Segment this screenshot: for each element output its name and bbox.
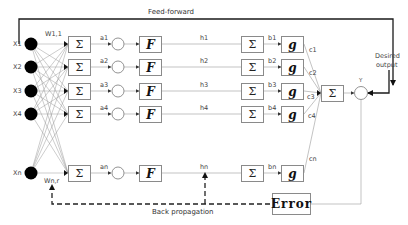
- b-label-4: b4: [268, 105, 276, 112]
- weight-label-last: Wn,r: [44, 178, 59, 185]
- c-label-2: c2: [309, 70, 317, 77]
- input-node-x4: [25, 108, 38, 121]
- b-label-2: b2: [268, 58, 276, 65]
- error-node: Error: [272, 193, 311, 215]
- desired-output-path: [368, 70, 389, 93]
- activation-node-1: [112, 38, 124, 50]
- output-sum-node: Σ: [321, 85, 344, 102]
- input-weight-connections: [31, 44, 68, 173]
- sum-node-3: Σ: [68, 83, 91, 100]
- input-label-x2: X2: [13, 64, 22, 71]
- h-label-1: h1: [200, 35, 208, 42]
- hidden-sum-node-2: Σ: [241, 59, 264, 76]
- input-label-xn: Xn: [13, 170, 22, 177]
- c-label-4: c4: [308, 113, 316, 120]
- c-label-3: c3: [307, 94, 315, 101]
- sum-node-2: Σ: [68, 59, 91, 76]
- b-label-n: bn: [268, 164, 276, 171]
- feed-forward-label: Feed-forward: [148, 9, 194, 16]
- h-label-3: h3: [200, 82, 208, 89]
- activation-node-2: [112, 61, 124, 73]
- input-label-x1: X1: [13, 41, 22, 48]
- back-propagation-label: Back propagation: [152, 209, 214, 216]
- a-label-n: an: [100, 164, 108, 171]
- output-y-label: Y: [359, 78, 362, 84]
- input-label-x4: X4: [13, 111, 22, 118]
- a-label-3: a3: [100, 82, 108, 89]
- g-node-3: g: [281, 83, 304, 100]
- desired-output-label-1: Desired: [375, 53, 400, 60]
- output-comparator-node: [355, 87, 368, 100]
- activation-node-4: [112, 108, 124, 120]
- a-label-1: a1: [100, 35, 108, 42]
- f-node-2: F: [139, 59, 162, 76]
- a-label-4: a4: [100, 105, 108, 112]
- g-node-2: g: [281, 59, 304, 76]
- sum-node-1: Σ: [68, 36, 91, 53]
- sum-node-n: Σ: [68, 165, 91, 182]
- g-node-1: g: [281, 36, 304, 53]
- f-node-4: F: [139, 106, 162, 123]
- g-node-n: g: [281, 165, 304, 182]
- b-label-3: b3: [268, 82, 276, 89]
- c-label-n: cn: [309, 156, 317, 163]
- desired-output-label-2: output: [376, 62, 397, 69]
- h-label-4: h4: [200, 105, 208, 112]
- hidden-sum-node-4: Σ: [241, 106, 264, 123]
- sum-node-4: Σ: [68, 106, 91, 123]
- f-node-3: F: [139, 83, 162, 100]
- h-label-2: h2: [200, 58, 208, 65]
- f-node-1: F: [139, 36, 162, 53]
- input-node-xn: [25, 167, 38, 180]
- c-label-1: c1: [309, 47, 317, 54]
- weight-label-first: W1,1: [45, 31, 62, 38]
- activation-node-3: [112, 85, 124, 97]
- activation-node-n: [112, 167, 124, 179]
- input-node-x3: [25, 85, 38, 98]
- f-node-n: F: [139, 165, 162, 182]
- input-label-x3: X3: [13, 88, 22, 95]
- g-node-4: g: [281, 106, 304, 123]
- row-connections: [91, 44, 361, 204]
- h-label-n: hn: [200, 164, 208, 171]
- hidden-sum-node-n: Σ: [241, 165, 264, 182]
- b-label-1: b1: [268, 35, 276, 42]
- hidden-sum-node-3: Σ: [241, 83, 264, 100]
- a-label-2: a2: [100, 58, 108, 65]
- hidden-sum-node-1: Σ: [241, 36, 264, 53]
- input-node-x1: [25, 38, 38, 51]
- input-node-x2: [25, 61, 38, 74]
